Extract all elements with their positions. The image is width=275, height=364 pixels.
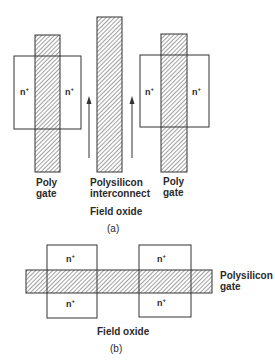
right-gate-label: Polygate	[163, 176, 184, 198]
arrow-up-icon	[87, 96, 92, 104]
arrow-up-icon	[130, 96, 135, 104]
field-oxide-label-b: Field oxide	[97, 326, 149, 337]
n-plus-label: n+	[157, 253, 166, 264]
figure-b-layout	[26, 245, 212, 318]
caption-a: (a)	[107, 223, 119, 234]
left-transistor	[14, 35, 81, 172]
field-oxide-label: Field oxide	[90, 206, 142, 217]
polysilicon-interconnect	[87, 17, 135, 172]
n-plus-label: n+	[65, 86, 74, 97]
n-plus-label: n+	[145, 86, 154, 97]
n-plus-label: n+	[20, 86, 29, 97]
right-transistor	[140, 34, 209, 172]
polysilicon-gate-label: Polysilicongate	[220, 270, 273, 292]
caption-b: (b)	[110, 343, 122, 354]
n-plus-label: n+	[66, 298, 75, 309]
n-plus-label: n+	[66, 253, 75, 264]
n-plus-label: n+	[157, 297, 166, 308]
interconnect-label: Polysiliconinterconnect	[90, 177, 150, 199]
left-gate-label: Polygate	[36, 177, 57, 199]
n-plus-label: n+	[192, 86, 201, 97]
